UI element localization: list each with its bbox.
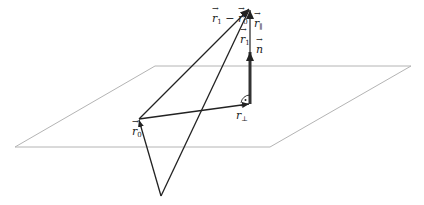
label-r0-vec-sub: 0: [137, 131, 141, 139]
label-r-perp-sub: ⊥: [241, 115, 248, 123]
plane: [15, 66, 411, 147]
label-r0-base: r: [238, 13, 243, 24]
right-angle-dot: [245, 99, 247, 101]
label-r-parallel-base: r: [254, 18, 259, 29]
label-r1-vec-base: r: [240, 34, 245, 45]
label-r0-vec-base: r: [132, 126, 137, 137]
label-n: n: [256, 44, 263, 55]
vector-r-perp: [139, 104, 249, 119]
label-minus: −: [222, 12, 238, 25]
label-r-parallel: r∥: [254, 18, 263, 31]
label-n-base: n: [256, 44, 263, 55]
label-r-perp-base: r: [236, 110, 241, 121]
label-r1-base: r: [212, 13, 217, 24]
label-r-parallel-sub: ∥: [259, 23, 262, 31]
label-r0: r0: [132, 126, 142, 139]
label-r1: r1: [240, 34, 250, 47]
label-r1-vec-sub: 1: [245, 39, 249, 47]
label-r-perp: r⊥: [236, 110, 248, 123]
plane-vector-diagram: r1 − r0 r∥ r1 n r⊥ r0: [0, 0, 424, 205]
diagram-canvas: [0, 0, 424, 205]
vector-r0: [139, 120, 161, 196]
